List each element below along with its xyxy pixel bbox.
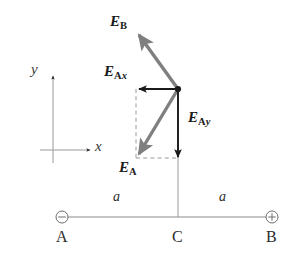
axis-indicator [40,76,90,163]
charge-a-symbol [56,211,68,223]
label-e-b-main: E [110,13,120,29]
axis-label-x: x [95,139,102,154]
distance-label-c-to-b: a [219,190,226,204]
label-e-a-y-main: E [188,109,198,125]
label-e-a-y-sub-axis: y [206,116,211,127]
charge-baseline-group [56,211,278,223]
charge-a-label: A [56,229,68,245]
vector-e-b [139,35,178,89]
charge-b-symbol [266,211,278,223]
label-e-a: EA [119,160,137,177]
label-e-a-y: EAy [188,110,210,127]
physics-field-diagram: EB EAx EAy EA y x a a A C B [0,0,301,257]
vector-e-a [139,89,178,154]
vector-origin-dot [175,86,181,92]
label-e-a-x-sub: A [114,70,122,81]
diagram-canvas [0,0,301,257]
axis-label-y: y [31,62,38,77]
label-e-b: EB [110,14,127,31]
label-e-a-x: EAx [104,64,127,81]
label-e-a-y-sub: A [198,116,206,127]
label-e-a-sub: A [129,166,137,177]
label-e-a-main: E [119,159,129,175]
charge-b-label: B [266,229,277,245]
label-e-a-x-main: E [104,63,114,79]
distance-label-a-to-c: a [113,190,120,204]
point-c-label: C [172,229,183,245]
label-e-b-sub: B [120,20,127,31]
label-e-a-x-sub-axis: x [122,70,127,81]
